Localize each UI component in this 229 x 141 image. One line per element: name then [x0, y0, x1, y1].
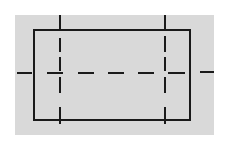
gray-panel: [15, 15, 214, 135]
diagram-canvas: [0, 0, 229, 141]
